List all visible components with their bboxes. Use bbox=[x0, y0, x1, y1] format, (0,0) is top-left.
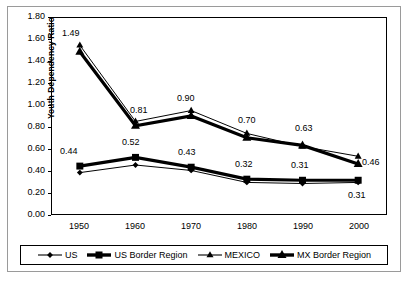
data-point-label: 0.52 bbox=[122, 138, 140, 147]
data-point-label: 0.46 bbox=[362, 158, 380, 167]
y-tick-label: 1.00 bbox=[8, 100, 45, 109]
x-tick-label: 1990 bbox=[283, 222, 323, 231]
y-tick-label: 1.40 bbox=[8, 56, 45, 65]
x-tick-label: 1950 bbox=[59, 222, 99, 231]
legend-label: US bbox=[65, 250, 78, 260]
x-tick-label: 2000 bbox=[339, 222, 379, 231]
x-tick-label: 1960 bbox=[115, 222, 155, 231]
plot-area bbox=[51, 17, 387, 215]
data-point-label: 0.81 bbox=[130, 106, 148, 115]
legend-label: MX Border Region bbox=[297, 250, 371, 260]
legend-item-us[interactable]: US bbox=[37, 249, 78, 261]
y-tick-label: 0.00 bbox=[8, 210, 45, 219]
series-mx-border-region bbox=[75, 47, 362, 167]
data-point-label: 0.44 bbox=[60, 147, 78, 156]
legend-label: US Border Region bbox=[114, 250, 187, 260]
plot-series-svg bbox=[52, 18, 386, 214]
x-tick-label: 1980 bbox=[227, 222, 267, 231]
series-mexico bbox=[76, 41, 361, 158]
data-point-label: 0.31 bbox=[291, 161, 309, 170]
x-tick-label: 1970 bbox=[171, 222, 211, 231]
series-us-border-region bbox=[76, 154, 361, 184]
y-tick-label: 1.20 bbox=[8, 78, 45, 87]
y-tick-mark bbox=[48, 215, 51, 216]
y-tick-label: 0.20 bbox=[8, 188, 45, 197]
triangle-marker-icon bbox=[197, 249, 223, 261]
data-point-label: 0.70 bbox=[238, 116, 256, 125]
data-point-label: 0.31 bbox=[348, 191, 366, 200]
legend-item-us-border-region[interactable]: US Border Region bbox=[86, 249, 187, 261]
square-marker-icon bbox=[86, 249, 112, 261]
legend-label: MEXICO bbox=[225, 250, 261, 260]
triangle-marker-icon bbox=[269, 249, 295, 261]
y-tick-label: 1.80 bbox=[8, 12, 45, 21]
data-point-label: 0.43 bbox=[178, 148, 196, 157]
y-tick-label: 0.60 bbox=[8, 144, 45, 153]
chart-frame: Youth Dependency Ratio 1.801.601.401.201… bbox=[7, 6, 401, 272]
chart-legend: USUS Border RegionMEXICOMX Border Region bbox=[20, 245, 388, 265]
legend-item-mx-border-region[interactable]: MX Border Region bbox=[269, 249, 371, 261]
data-point-label: 0.63 bbox=[295, 124, 313, 133]
y-tick-label: 0.40 bbox=[8, 166, 45, 175]
legend-item-mexico[interactable]: MEXICO bbox=[197, 249, 261, 261]
y-tick-label: 0.80 bbox=[8, 122, 45, 131]
data-point-label: 0.32 bbox=[235, 160, 253, 169]
data-point-label: 1.49 bbox=[62, 29, 80, 38]
y-tick-label: 1.60 bbox=[8, 34, 45, 43]
diamond-marker-icon bbox=[37, 249, 63, 261]
data-point-label: 0.90 bbox=[177, 94, 195, 103]
